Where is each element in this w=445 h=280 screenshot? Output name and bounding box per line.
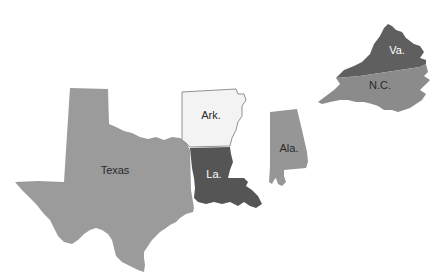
state-alabama[interactable]: Ala. (269, 109, 308, 186)
north-carolina-label: N.C. (369, 79, 391, 91)
state-louisiana[interactable]: La. (190, 147, 262, 208)
state-arkansas[interactable]: Ark. (182, 89, 246, 147)
virginia-label: Va. (389, 44, 405, 56)
alabama-label: Ala. (280, 142, 299, 154)
state-map: Texas Ark. La. Ala. Va. N.C. (0, 0, 445, 280)
texas-shape (15, 88, 194, 272)
state-texas[interactable]: Texas (15, 88, 194, 272)
louisiana-label: La. (206, 168, 221, 180)
texas-label: Texas (101, 164, 130, 176)
louisiana-shape (190, 147, 262, 208)
arkansas-label: Ark. (201, 109, 221, 121)
